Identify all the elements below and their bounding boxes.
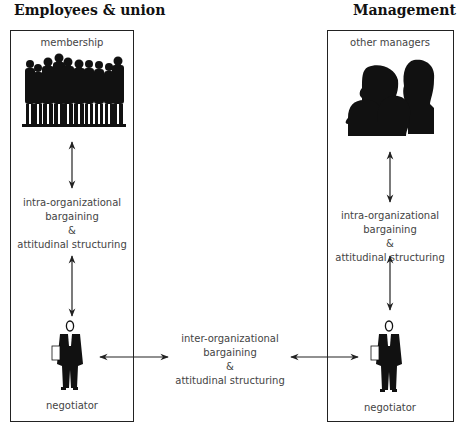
crowd-silhouette-icon [22, 54, 126, 128]
right-businessman-negotiator-icon [371, 321, 402, 392]
left-businessman-negotiator-icon [52, 321, 83, 390]
heads-silhouette-icon [346, 60, 435, 136]
diagram-graphics [0, 0, 461, 427]
